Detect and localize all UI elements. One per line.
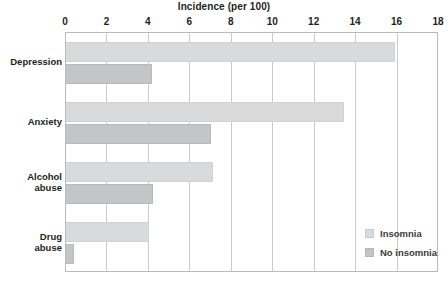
legend-item-no-insomnia: No insomnia [365,244,437,260]
plot-area: Insomnia No insomnia [65,32,438,272]
bar-chart: Incidence (per 100) 024681012141618 Inso… [0,0,448,281]
bar-insomnia-drug-abuse [66,222,149,242]
x-tick-label-16: 16 [391,16,402,27]
bar-no-insomnia-depression [66,64,152,84]
legend-swatch-icon-no-insomnia [365,248,374,257]
legend-label-no-insomnia: No insomnia [380,247,437,258]
bar-insomnia-anxiety [66,102,344,122]
legend-label-insomnia: Insomnia [380,228,422,239]
x-tick-label-12: 12 [308,16,319,27]
x-tick-label-6: 6 [187,16,193,27]
bar-no-insomnia-drug-abuse [66,244,74,264]
x-tick-label-4: 4 [145,16,151,27]
chart-title: Incidence (per 100) [0,1,448,12]
gridline-12 [314,33,315,271]
chart-legend: Insomnia No insomnia [365,225,437,263]
x-tick-label-14: 14 [350,16,361,27]
x-tick-label-0: 0 [62,16,68,27]
legend-item-insomnia: Insomnia [365,225,437,241]
category-label-alcohol-abuse: Alcohol abuse [0,171,62,194]
category-label-drug-abuse: Drug abuse [0,231,62,254]
gridline-14 [355,33,356,271]
x-tick-label-10: 10 [267,16,278,27]
bar-no-insomnia-anxiety [66,124,211,144]
x-tick-label-2: 2 [104,16,110,27]
category-label-depression: Depression [0,56,62,68]
gridline-8 [231,33,232,271]
gridline-10 [272,33,273,271]
bar-insomnia-depression [66,42,395,62]
x-tick-label-8: 8 [228,16,234,27]
gridline-6 [189,33,190,271]
bar-insomnia-alcohol-abuse [66,162,213,182]
legend-swatch-icon-insomnia [365,229,374,238]
x-tick-label-18: 18 [432,16,443,27]
category-label-anxiety: Anxiety [0,116,62,128]
bar-no-insomnia-alcohol-abuse [66,184,153,204]
